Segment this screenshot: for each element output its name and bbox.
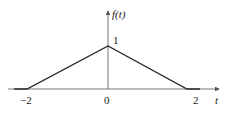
tick-label-0: 0 [104, 94, 110, 106]
function-curve [14, 46, 200, 89]
y-axis-label: f(t) [112, 8, 126, 21]
x-axis-label: t [215, 94, 219, 106]
triangle-pulse-plot: f(t) 1 −2 0 2 t [0, 0, 228, 127]
tick-label-neg2: −2 [20, 94, 32, 106]
tick-label-2: 2 [193, 94, 199, 106]
peak-label: 1 [113, 34, 119, 46]
